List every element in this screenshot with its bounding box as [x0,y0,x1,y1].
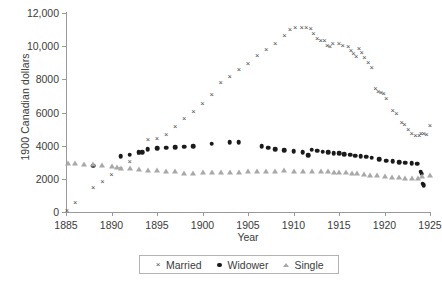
data-point-widower [209,142,214,147]
x-tick-mark [430,212,431,216]
data-point-married: × [308,26,314,32]
y-tick-label: 4000 [36,140,59,152]
x-tick-mark [294,212,295,216]
data-point-widower [173,145,178,150]
data-point-single [300,168,306,173]
data-point-single [272,168,278,173]
data-point-married: × [336,41,342,47]
data-point-single [227,169,233,174]
data-point-married: × [263,47,269,53]
data-point-married: × [90,185,96,191]
x-tick-mark [339,212,340,216]
data-point-widower [410,161,415,166]
data-point-widower [403,160,408,165]
data-point-single [145,167,151,172]
data-point-married: × [356,46,362,52]
data-point-married: × [99,179,105,185]
data-point-single [415,176,421,181]
y-tick-mark [62,179,66,180]
data-point-widower [309,147,314,152]
legend-label: Single [294,259,323,271]
data-point-widower [127,152,132,157]
data-point-single [90,162,96,167]
data-point-widower [237,140,242,145]
data-point-married: × [311,31,317,37]
data-point-single [374,173,380,178]
data-point-married: × [324,43,330,49]
data-point-single [209,170,215,175]
data-point-widower [155,146,160,151]
data-point-married: × [393,111,399,117]
data-point-widower [420,172,425,177]
data-point-widower [337,151,342,156]
data-point-married: × [272,41,278,47]
chart-legend: ×MarriedWidowerSingle [139,255,339,274]
y-axis-title: 1900 Canadian dollars [16,0,34,214]
data-point-single [127,165,133,170]
data-point-married: × [359,50,365,56]
data-point-single [218,170,224,175]
data-point-married: × [348,48,354,54]
data-point-married: × [154,136,160,142]
data-point-married: × [383,96,389,102]
data-point-widower [331,151,336,156]
data-point-single [81,161,87,166]
data-point-single [236,169,242,174]
data-point-widower [397,160,402,165]
data-point-single [163,168,169,173]
data-point-married: × [351,51,357,57]
x-tick-label: 1900 [191,219,214,231]
y-tick-label: 10,000 [27,40,59,52]
data-point-married: × [190,109,196,115]
data-point-single [336,169,342,174]
data-point-single [343,170,349,175]
legend-item-single[interactable]: Single [282,259,323,271]
y-tick-mark [62,79,66,80]
data-point-married: × [218,80,224,86]
y-tick-label: 8000 [36,73,59,85]
legend-item-married[interactable]: ×Married [154,259,202,271]
data-point-widower [421,183,426,188]
data-point-single [109,164,115,169]
data-point-married: × [365,60,371,66]
y-tick-mark [62,46,66,47]
data-point-widower [348,152,353,157]
data-point-widower [191,144,196,149]
data-point-single [181,171,187,176]
data-point-single [402,175,408,180]
data-point-widower [326,150,331,155]
data-point-married: × [299,25,305,31]
data-point-married: × [172,124,178,130]
data-point-widower [300,150,305,155]
y-tick-mark [62,113,66,114]
data-point-single [254,168,260,173]
data-point-married: × [416,133,422,139]
x-tick-label: 1905 [236,219,259,231]
data-point-single [190,170,196,175]
data-point-married: × [163,132,169,138]
data-point-single [367,172,373,177]
x-tick-mark [112,212,113,216]
x-tick-label: 1915 [327,219,350,231]
x-tick-label: 1885 [54,219,77,231]
data-point-married: × [418,131,424,137]
data-point-single [200,170,206,175]
data-point-married: × [292,25,298,31]
data-point-single [361,171,367,176]
data-point-married: × [287,27,293,33]
data-point-married: × [345,44,351,50]
x-tick-mark [203,212,204,216]
data-point-single [427,172,433,177]
data-point-single [281,168,287,173]
y-tick-label: 12,000 [27,7,59,19]
data-point-widower [377,157,382,162]
data-point-single [72,161,78,166]
legend-label: Widower [228,259,269,271]
data-point-married: × [318,38,324,44]
data-point-married: × [245,61,251,67]
plot-area: 0200040006000800010,00012,000 1885189018… [66,13,430,212]
data-point-married: × [361,55,367,61]
data-point-widower [390,159,395,164]
data-point-single [118,166,124,171]
legend-item-widower[interactable]: Widower [216,259,269,271]
